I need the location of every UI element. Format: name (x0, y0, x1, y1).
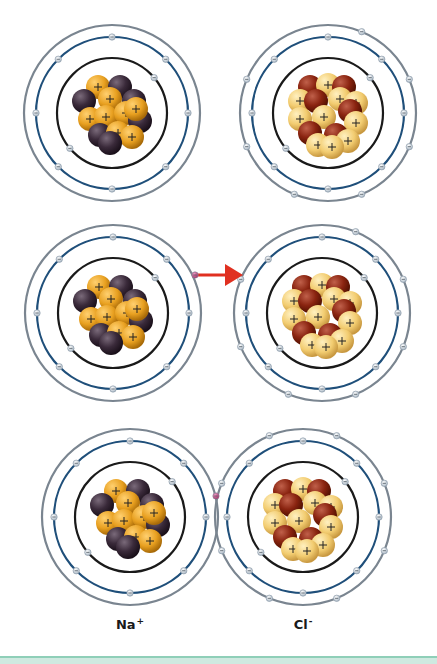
electron-icon (85, 549, 91, 555)
electron-icon (185, 110, 191, 116)
electron-icon (333, 595, 339, 601)
sodium-atom (25, 225, 201, 401)
electron-icon (376, 514, 382, 520)
electron-icon (213, 493, 219, 499)
electron-icon (218, 480, 224, 486)
electron-icon (319, 386, 325, 392)
nucleus (263, 477, 343, 563)
electron-icon (379, 164, 385, 170)
electron-icon (203, 514, 209, 520)
electron-icon (243, 143, 249, 149)
electron-icon (352, 391, 358, 397)
electron-icon (192, 272, 198, 278)
neutron (99, 331, 123, 355)
electron-icon (379, 56, 385, 62)
chlorine-symbol: Cl (294, 617, 308, 632)
electron-icon (56, 364, 62, 370)
electron-icon (152, 274, 158, 280)
negative-charge: - (309, 616, 313, 626)
electron-icon (354, 460, 360, 466)
electron-icon (243, 310, 249, 316)
electron-icon (395, 310, 401, 316)
electron-icon (243, 76, 249, 82)
sodium-atom (24, 25, 200, 201)
electron-icon (73, 460, 79, 466)
sodium-ion-label: Na+ (116, 616, 144, 632)
electron-icon (285, 391, 291, 397)
sodium-ion (42, 429, 218, 605)
electron-icon (354, 568, 360, 574)
electron-icon (300, 438, 306, 444)
electron-icon (266, 432, 272, 438)
electron-icon (218, 547, 224, 553)
electron-icon (381, 547, 387, 553)
electron-icon (271, 164, 277, 170)
electron-icon (109, 34, 115, 40)
electron-icon (265, 364, 271, 370)
electron-icon (373, 256, 379, 262)
electron-icon (55, 164, 61, 170)
nucleus (90, 479, 170, 559)
electron-icon (358, 191, 364, 197)
footer-bar (0, 656, 437, 664)
electron-icon (283, 145, 289, 151)
neutron (116, 535, 140, 559)
electron-icon (373, 364, 379, 370)
electron-icon (266, 595, 272, 601)
electron-icon (401, 110, 407, 116)
electron-icon (163, 56, 169, 62)
electron-icon (271, 56, 277, 62)
electron-icon (358, 28, 364, 34)
electron-icon (127, 438, 133, 444)
electron-icon (169, 478, 175, 484)
nucleus (72, 75, 152, 155)
electron-icon (246, 460, 252, 466)
chlorine-atom (240, 25, 416, 201)
electron-icon (181, 568, 187, 574)
electron-icon (73, 568, 79, 574)
electron-icon (342, 478, 348, 484)
electron-icon (246, 568, 252, 574)
electron-icon (400, 276, 406, 282)
positive-charge: + (137, 616, 145, 626)
electron-icon (352, 228, 358, 234)
electron-icon (186, 310, 192, 316)
electron-icon (109, 186, 115, 192)
nucleus (282, 273, 362, 359)
electron-icon (110, 234, 116, 240)
electron-icon (319, 234, 325, 240)
chlorine-atom (234, 225, 410, 401)
neutron (98, 131, 122, 155)
electron-icon (333, 432, 339, 438)
electron-icon (258, 549, 264, 555)
electron-icon (110, 386, 116, 392)
electron-icon (277, 345, 283, 351)
sodium-symbol: Na (116, 617, 136, 632)
electron-icon (34, 310, 40, 316)
electron-icon (249, 110, 255, 116)
electron-icon (367, 74, 373, 80)
electron-icon (325, 186, 331, 192)
electron-icon (163, 164, 169, 170)
electron-icon (325, 34, 331, 40)
electron-icon (406, 143, 412, 149)
electron-icon (224, 514, 230, 520)
electron-icon (127, 590, 133, 596)
electron-icon (164, 256, 170, 262)
electron-icon (51, 514, 57, 520)
nucleus (288, 73, 368, 159)
chloride-ion-label: Cl- (294, 616, 313, 632)
transfer-arrow-icon (197, 264, 243, 286)
electron-icon (33, 110, 39, 116)
electron-icon (181, 460, 187, 466)
nucleus (73, 275, 153, 355)
electron-icon (55, 56, 61, 62)
electron-icon (291, 191, 297, 197)
electron-icon (381, 480, 387, 486)
electron-icon (68, 345, 74, 351)
chlorine-ion (215, 429, 391, 605)
electron-icon (164, 364, 170, 370)
electron-icon (361, 274, 367, 280)
electron-icon (67, 145, 73, 151)
